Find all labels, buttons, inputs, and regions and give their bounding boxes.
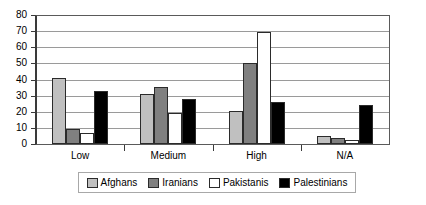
y-tick-label: 40 bbox=[16, 75, 27, 85]
bars-layer bbox=[36, 15, 389, 144]
legend-label: Afghans bbox=[101, 177, 138, 188]
bar-group bbox=[229, 15, 285, 144]
legend-swatch-icon bbox=[148, 178, 159, 188]
bar-group bbox=[140, 15, 196, 144]
bar bbox=[257, 32, 271, 144]
y-tick-label: 60 bbox=[16, 42, 27, 52]
bar bbox=[243, 63, 257, 144]
legend-label: Iranians bbox=[162, 177, 198, 188]
bar-group bbox=[52, 15, 108, 144]
y-tick-label: 50 bbox=[16, 58, 27, 68]
bar bbox=[182, 99, 196, 144]
bar bbox=[94, 91, 108, 144]
bar bbox=[345, 140, 359, 144]
bar bbox=[317, 136, 331, 144]
y-tick-label: 0 bbox=[21, 139, 27, 149]
x-tick-label: N/A bbox=[337, 150, 354, 161]
y-tick-label: 80 bbox=[16, 10, 27, 20]
legend-swatch-icon bbox=[209, 178, 220, 188]
legend-label: Pakistanis bbox=[223, 177, 269, 188]
bar bbox=[271, 102, 285, 144]
bar bbox=[154, 87, 168, 144]
bar bbox=[359, 105, 373, 144]
y-tick-label: 20 bbox=[16, 107, 27, 117]
bar bbox=[229, 111, 243, 144]
legend-swatch-icon bbox=[87, 178, 98, 188]
legend-swatch-icon bbox=[279, 178, 290, 188]
y-tick-label: 10 bbox=[16, 123, 27, 133]
y-axis: 01020304050607080 bbox=[0, 15, 31, 145]
legend-item: Palestinians bbox=[279, 177, 347, 188]
bar-chart: 01020304050607080 LowMediumHighN/A Afgha… bbox=[0, 0, 426, 205]
legend-item: Pakistanis bbox=[209, 177, 269, 188]
x-tick-label: Medium bbox=[151, 150, 187, 161]
bar bbox=[80, 133, 94, 144]
y-tick-label: 70 bbox=[16, 26, 27, 36]
bar bbox=[331, 138, 345, 144]
bar bbox=[168, 113, 182, 144]
bar bbox=[140, 94, 154, 144]
legend-item: Iranians bbox=[148, 177, 198, 188]
x-axis: LowMediumHighN/A bbox=[36, 150, 389, 166]
x-tick-label: Low bbox=[71, 150, 89, 161]
x-tick-label: High bbox=[246, 150, 267, 161]
bar bbox=[52, 78, 66, 144]
legend-label: Palestinians bbox=[293, 177, 347, 188]
legend-item: Afghans bbox=[87, 177, 138, 188]
y-tick-label: 30 bbox=[16, 91, 27, 101]
bar bbox=[66, 129, 80, 144]
bar-group bbox=[317, 15, 373, 144]
chart-legend: AfghansIraniansPakistanisPalestinians bbox=[78, 172, 356, 193]
